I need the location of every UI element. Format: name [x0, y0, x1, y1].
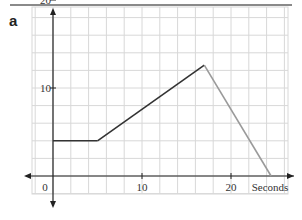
series-segment-3-falling [204, 65, 271, 176]
x-tick-label: 20 [226, 181, 238, 193]
x-axis-arrow-left-icon [24, 173, 31, 179]
x-tick-label: 0 [42, 181, 48, 193]
series-segment-2-rising [98, 65, 205, 141]
line-chart: 010201020Seconds [0, 0, 302, 220]
y-axis-arrow-up-icon [50, 8, 56, 15]
y-tick-label: 20 [40, 0, 52, 6]
x-axis-arrow-right-icon [287, 173, 294, 179]
y-tick-label: 10 [40, 82, 52, 94]
x-tick-label: 10 [137, 181, 149, 193]
grid [32, 7, 288, 194]
y-axis-arrow-down-icon [50, 201, 56, 208]
x-axis-label: Seconds [252, 181, 289, 193]
